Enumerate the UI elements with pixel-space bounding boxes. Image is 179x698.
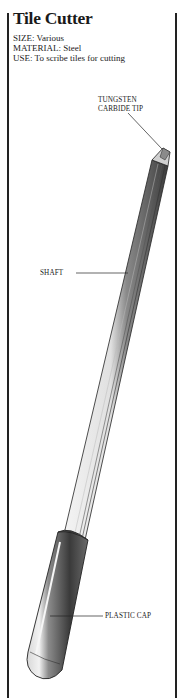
tip-label: TUNGSTEN CARBIDE TIP <box>98 96 143 113</box>
shaft-label: SHAFT <box>40 269 63 278</box>
tile-cutter-illustration <box>0 0 179 698</box>
cap-label: PLASTIC CAP <box>105 612 151 621</box>
shaft-body <box>64 160 168 540</box>
tip-leader-line <box>128 113 162 149</box>
plastic-cap <box>27 530 88 679</box>
